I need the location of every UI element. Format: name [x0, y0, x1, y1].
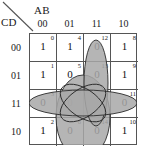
kmap-cell-11: 11 0 — [111, 90, 138, 118]
cell-value: 1 — [30, 125, 56, 136]
kmap-cell-2: 2 1 — [30, 118, 57, 146]
column-header-2: 11 — [83, 19, 110, 29]
row-header-2: 11 — [5, 99, 27, 109]
cell-value: 1 — [111, 41, 138, 52]
kmap-grid: 0 1 4 1 12 0 8 1 1 1 5 0 13 0 9 1 — [29, 33, 137, 145]
cell-value: 0 — [57, 69, 83, 80]
cell-value: 0 — [84, 97, 110, 108]
cell-value: 1 — [30, 41, 56, 52]
cell-value: 0 — [57, 125, 83, 136]
kmap-cell-7: 7 0 — [57, 90, 84, 118]
karnaugh-map-diagram: AB CD 00 01 11 10 00 01 11 10 0 1 4 1 12… — [0, 0, 143, 152]
cell-value: 0 — [111, 97, 138, 108]
kmap-cell-8: 8 1 — [111, 34, 138, 62]
cell-value: 0 — [30, 97, 56, 108]
kmap-cell-15: 15 0 — [84, 90, 111, 118]
cell-value: 1 — [111, 69, 138, 80]
axis-label-ab: AB — [34, 5, 50, 16]
kmap-cell-0: 0 1 — [30, 34, 57, 62]
kmap-cell-12: 12 0 — [84, 34, 111, 62]
cell-value: 1 — [30, 69, 56, 80]
kmap-cell-6: 6 0 — [57, 118, 84, 146]
cell-value: 1 — [111, 125, 138, 136]
column-header-3: 10 — [110, 19, 137, 29]
column-header-0: 00 — [29, 19, 56, 29]
cell-value: 0 — [57, 97, 83, 108]
cell-value: 0 — [84, 69, 110, 80]
axis-label-cd: CD — [1, 17, 17, 28]
kmap-cell-4: 4 1 — [57, 34, 84, 62]
cell-value: 0 — [84, 125, 110, 136]
kmap-cell-10: 10 1 — [111, 118, 138, 146]
cell-value: 1 — [57, 41, 83, 52]
kmap-cell-9: 9 1 — [111, 62, 138, 90]
cell-value: 0 — [84, 41, 110, 52]
row-header-0: 00 — [5, 43, 27, 53]
row-header-1: 01 — [5, 71, 27, 81]
kmap-cell-3: 3 0 — [30, 90, 57, 118]
kmap-cell-1: 1 1 — [30, 62, 57, 90]
kmap-cell-14: 14 0 — [84, 118, 111, 146]
kmap-cell-13: 13 0 — [84, 62, 111, 90]
row-header-3: 10 — [5, 127, 27, 137]
column-header-1: 01 — [56, 19, 83, 29]
kmap-cell-5: 5 0 — [57, 62, 84, 90]
